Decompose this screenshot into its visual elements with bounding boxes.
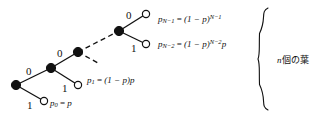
formula-equals: = <box>174 39 184 49</box>
formula-equals: = <box>95 75 105 85</box>
formula-subscript: N−1 <box>163 17 175 24</box>
edge-label-levelN-one: 1 <box>131 43 137 54</box>
formula-equals: = <box>58 98 68 108</box>
edge-label-root-zero: 0 <box>26 66 32 77</box>
edge-label-level2-zero: 0 <box>57 48 63 59</box>
brace-label-text: 個の葉 <box>282 55 309 65</box>
tree-node-leaf <box>74 81 81 88</box>
tree-node-leaf <box>142 10 149 17</box>
formula-body: p <box>67 98 72 108</box>
formula-equals: = <box>174 14 184 24</box>
tree-edges-dashed <box>78 31 119 63</box>
tree-node-internal <box>73 47 82 56</box>
tree-node-leaf <box>142 40 149 47</box>
right-curly-brace <box>258 8 268 110</box>
formula-tail: p <box>222 39 227 49</box>
formula-exponent: N−1 <box>210 13 222 20</box>
tree-edge-dashed <box>78 31 119 52</box>
tree-edge <box>16 68 51 85</box>
formula-exponent: N−2 <box>210 38 222 45</box>
formula-p-zero: p0 = p <box>50 98 72 110</box>
brace-label: n個の葉 <box>277 55 309 65</box>
tree-edges-solid <box>16 14 146 101</box>
formula-body: (1 − p) <box>184 14 210 24</box>
formula-body: (1 − p)p <box>104 75 134 85</box>
formula-p-n-minus-1: pN−1 = (1 − p)N−1 <box>158 12 222 26</box>
edge-label-level2-one: 1 <box>62 83 68 94</box>
formula-p-one: p1 = (1 − p)p <box>87 75 134 87</box>
edge-label-levelN-zero: 0 <box>126 10 132 21</box>
tree-node-internal <box>46 63 55 72</box>
probability-tree-figure: 010101 pN−1 = (1 − p)N−1pN−2 = (1 − p)N−… <box>0 0 319 119</box>
tree-node-internal <box>114 26 123 35</box>
edge-label-root-one: 1 <box>27 100 33 111</box>
tree-node-internal <box>11 80 20 89</box>
formula-body: (1 − p) <box>184 39 210 49</box>
formula-p-n-minus-2: pN−2 = (1 − p)N−2p <box>158 37 226 51</box>
formula-subscript: N−2 <box>163 42 175 49</box>
tree-node-leaf <box>40 97 47 104</box>
